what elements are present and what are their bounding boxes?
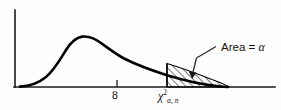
chi-square-distribution-figure: 8 χ2α, n Area = α	[0, 0, 281, 110]
area-annotation-label: Area = α	[221, 41, 265, 54]
chi-subscript: α, n	[167, 96, 178, 105]
area-annotation-leader	[189, 47, 216, 80]
area-annotation-prefix: Area =	[221, 41, 258, 53]
x-tick-label-8: 8	[112, 90, 118, 102]
critical-value-label: χ2α, n	[158, 89, 178, 105]
chart-canvas	[0, 0, 281, 110]
alpha-symbol: α	[258, 40, 264, 54]
